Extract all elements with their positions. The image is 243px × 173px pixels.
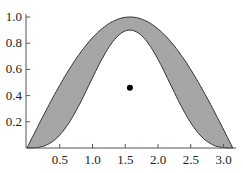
- data-point: [127, 85, 133, 91]
- x-tick-label: 3.0: [215, 152, 231, 167]
- y-tick-label: 1.0: [6, 9, 22, 24]
- x-tick-label: 1.0: [84, 152, 100, 167]
- plot-area: [27, 17, 233, 148]
- x-tick-label: 2.5: [183, 152, 199, 167]
- y-tick-label: 0.8: [6, 35, 22, 50]
- y-tick-label: 0.2: [6, 114, 22, 129]
- x-ticks: 0.51.01.52.02.53.0: [52, 144, 232, 167]
- x-tick-label: 2.0: [150, 152, 166, 167]
- chart: 0.51.01.52.02.53.0 0.20.40.60.81.0: [0, 0, 243, 173]
- x-tick-label: 1.5: [117, 152, 133, 167]
- x-tick-label: 0.5: [52, 152, 68, 167]
- shaded-band: [27, 17, 233, 148]
- y-tick-label: 0.6: [6, 61, 23, 76]
- y-tick-label: 0.4: [6, 88, 23, 103]
